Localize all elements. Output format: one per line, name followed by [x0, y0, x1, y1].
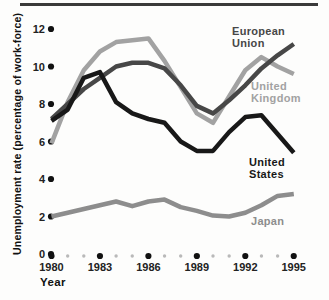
series-label-line: Japan: [251, 215, 284, 227]
y-tick-label: 0: [39, 248, 45, 260]
x-tick-dot-minor: [163, 254, 166, 257]
y-tick-dot: [48, 176, 54, 182]
line-japan: [52, 194, 294, 217]
x-tick-dot-minor: [276, 254, 279, 257]
x-tick-label: 1989: [185, 261, 209, 273]
y-tick-dot: [48, 63, 54, 69]
x-tick-dot-minor: [211, 254, 214, 257]
y-tick-label: 12: [33, 23, 45, 35]
x-tick-dot-minor: [131, 254, 134, 257]
x-tick-label: 1986: [136, 261, 160, 273]
x-tick-dot-major: [291, 253, 297, 259]
x-tick-label: 1992: [233, 261, 257, 273]
x-tick-label: 1980: [39, 261, 63, 273]
series-label-line: States: [249, 168, 285, 180]
x-tick-dot-minor: [179, 254, 182, 257]
y-tick-label: 10: [33, 61, 45, 73]
y-tick-label: 4: [39, 173, 46, 185]
x-tick-dot-major: [242, 253, 248, 259]
series-label-line: United: [249, 156, 285, 168]
series-label-japan: Japan: [251, 215, 284, 227]
series-label-line: Kingdom: [251, 92, 301, 104]
y-tick-label: 8: [39, 98, 45, 110]
x-tick-dot-minor: [82, 254, 85, 257]
y-tick-label: 2: [39, 211, 45, 223]
series-label-line: European: [232, 25, 285, 37]
x-tick-dot-major: [48, 253, 54, 259]
x-tick-label: 1995: [282, 261, 306, 273]
x-axis-label: Year: [40, 276, 66, 288]
series-label-european-union: European Union: [232, 25, 285, 49]
series-label-united-states: United States: [249, 156, 285, 180]
series-label-line: United: [251, 80, 301, 92]
x-tick-label: 1983: [88, 261, 112, 273]
series-label-line: Union: [232, 37, 285, 49]
series-label-united-kingdom: United Kingdom: [251, 80, 301, 104]
x-tick-dot-major: [97, 253, 103, 259]
y-tick-label: 6: [39, 136, 45, 148]
x-tick-dot-minor: [227, 254, 230, 257]
x-tick-dot-major: [194, 253, 200, 259]
x-tick-dot-minor: [66, 254, 69, 257]
x-tick-dot-minor: [114, 254, 117, 257]
x-tick-dot-minor: [260, 254, 263, 257]
x-tick-dot-major: [145, 253, 151, 259]
y-tick-dot: [48, 26, 54, 32]
unemployment-chart-figure: Unemployment rate (percentage of work-fo…: [0, 0, 329, 300]
y-tick-dot: [48, 101, 54, 107]
